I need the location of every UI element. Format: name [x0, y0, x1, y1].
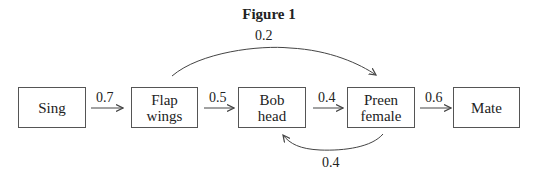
node-bob-head: Bob head: [238, 87, 306, 128]
node-bob-head-label: Bob head: [254, 92, 290, 124]
edge-label-flap-preen: 0.2: [255, 28, 273, 44]
node-preen-female: Preen female: [347, 87, 415, 128]
node-sing-label: Sing: [38, 100, 66, 116]
node-preen-female-label: Preen female: [358, 92, 404, 124]
edge-label-preen-bob: 0.4: [322, 155, 340, 171]
edge-label-sing-flap: 0.7: [96, 90, 114, 106]
edge-label-flap-bob: 0.5: [209, 90, 227, 106]
edge-label-bob-preen: 0.4: [318, 90, 336, 106]
edge-preen-bob-curve: [283, 134, 383, 150]
node-sing: Sing: [18, 87, 86, 128]
node-flap-wings: Flap wings: [131, 87, 198, 128]
edge-label-preen-mate: 0.6: [425, 90, 443, 106]
node-flap-wings-label: Flap wings: [145, 92, 185, 124]
node-mate: Mate: [453, 87, 520, 128]
node-mate-label: Mate: [471, 100, 502, 116]
edge-flap-preen-curve: [172, 47, 376, 76]
